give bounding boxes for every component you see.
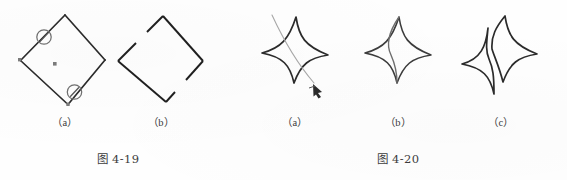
four-pointed-star-b: [365, 17, 431, 83]
edge-top-right: [65, 15, 105, 60]
figure-caption-4-19: 图 4-19: [78, 150, 158, 166]
edge-bottom-right: [68, 60, 105, 105]
handle-bottom-vertex[interactable]: [66, 103, 69, 106]
edge-top-left-seg1: [118, 43, 136, 61]
break-marker-slash-upper-left: [40, 33, 48, 42]
fig-4-19-panel-a: [18, 15, 105, 106]
fig-4-20-panel-b: [365, 17, 431, 83]
star-half-right-c: [492, 16, 537, 82]
edge-bottom-left: [118, 61, 166, 102]
edge-bottom-right-seg1: [186, 61, 203, 80]
pen-cursor-icon[interactable]: [309, 84, 322, 99]
panel-label-fig19-a: （a）: [32, 116, 98, 130]
rhombus-outline-a: [21, 15, 106, 105]
fig-4-20-panel-c: [462, 16, 537, 94]
handle-center[interactable]: [53, 62, 57, 66]
figure-page: （a） （b） （a） （b） （c） 图 4-19 图 4-20: [0, 0, 567, 180]
panel-label-fig20-a: （a）: [262, 116, 328, 130]
four-pointed-star-a: [262, 17, 328, 83]
fig-4-20-panel-a: [262, 15, 328, 99]
edge-bottom-left: [21, 61, 69, 105]
edge-bottom-right-seg2: [166, 92, 175, 102]
break-marker-upper-left[interactable]: [37, 30, 51, 44]
edge-top-left-seg2: [147, 16, 163, 32]
star-half-left-c: [462, 28, 494, 94]
handle-left-vertex[interactable]: [18, 58, 21, 61]
edge-top-right: [163, 16, 203, 61]
panel-label-fig20-b: （b）: [365, 116, 431, 130]
fig-4-19-panel-b: [118, 16, 203, 102]
panel-label-fig19-b: （b）: [128, 116, 194, 130]
figure-caption-4-20: 图 4-20: [358, 150, 438, 166]
panel-label-fig20-c: （c）: [468, 116, 534, 130]
